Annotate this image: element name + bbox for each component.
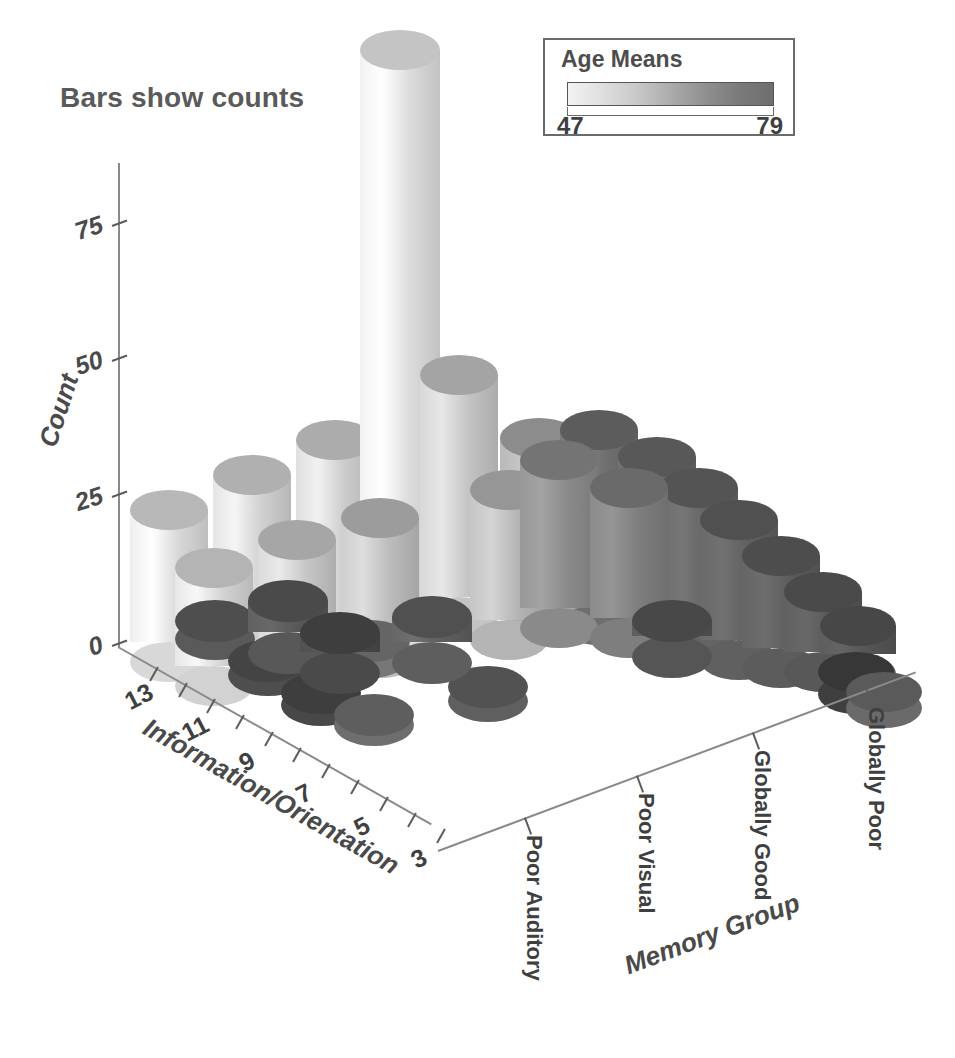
bar-cap [742,536,820,576]
z-tick-label: Globally Good [749,750,775,900]
z-tick-label: Globally Poor [863,707,889,850]
bar-gg-10 [334,694,414,725]
bar-front-d [632,600,712,657]
legend-bracket [567,107,774,116]
legend-min-label: 47 [557,112,584,140]
page-title: Bars show counts [60,82,304,114]
bar-base [632,636,712,678]
chart-canvas: 0255075 Count 13119753 Information/Orien… [0,0,955,1058]
z-tick-label: Poor Visual [633,793,659,914]
bar-base [392,642,472,684]
bar-cap [341,498,419,538]
bar-gp-2 [846,672,922,708]
bar-cap [392,596,472,638]
y-axis-line [118,163,120,647]
bar-cap [300,612,380,654]
bar-cap [520,440,598,480]
bar-base [300,652,380,694]
bar-mid-a [520,440,598,628]
bar-cap [258,520,336,560]
bar-cap [820,606,896,646]
legend-color-ramp [567,82,774,106]
bar-cap [213,455,291,495]
bars-layer [0,0,955,1058]
bar-cap [175,600,255,642]
bar-cap [130,490,208,530]
bar-cap [590,468,668,508]
bar-front-b [300,612,380,673]
bar-cap [360,30,440,70]
bar-body [520,460,598,608]
legend-max-label: 79 [756,112,783,140]
bar-cap [334,694,414,736]
bar-cap [632,600,712,642]
z-tick-label: Poor Auditory [521,835,547,981]
bar-cap [420,355,498,395]
bar-cap [700,500,778,540]
bar-front-c [392,596,472,663]
legend-box: Age Means 47 79 [543,38,795,136]
bar-base [520,608,598,648]
legend-title: Age Means [561,46,682,73]
bar-gg-13 [175,600,255,639]
bar-cap [175,548,253,588]
